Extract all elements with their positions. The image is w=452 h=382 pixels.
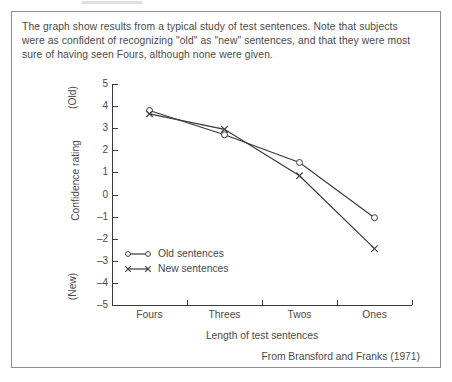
circle-marker-icon [124,248,152,260]
figure-root: The graph show results from a typical st… [0,0,452,382]
data-point-circle [372,215,378,221]
legend-label-new: New sentences [158,263,228,274]
chart-area: 543210–1–2–3–4–5 FoursThreesTwosOnes Con… [0,0,452,382]
series-line [150,114,375,249]
data-point-x [296,173,302,179]
legend-label-old: Old sentences [158,248,224,259]
series-line [150,111,375,218]
chart-legend: Old sentences New sentences [124,246,228,276]
figure-attribution: From Bransford and Franks (1971) [200,351,420,362]
plot-series-svg [0,0,452,382]
data-point-circle [297,160,303,166]
data-point-circle [222,132,228,138]
x-marker-icon [124,263,152,275]
data-point-circle [147,108,153,114]
data-point-x [371,245,377,251]
legend-item-new: New sentences [124,261,228,276]
legend-item-old: Old sentences [124,246,228,261]
